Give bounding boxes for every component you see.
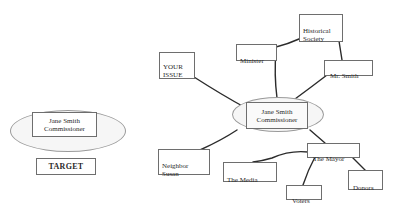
center-person-title: Commissioner	[257, 116, 298, 124]
center-person-box: Jane Smith Commissioner	[246, 102, 308, 129]
node-voters: Voters	[286, 185, 322, 200]
target-person-title: Commissioner	[44, 125, 85, 133]
edge-center-mayor	[310, 130, 325, 143]
node-label: The Mayor	[313, 155, 344, 163]
node-label: YOUR ISSUE	[163, 63, 183, 79]
node-label: Donors	[353, 184, 374, 192]
edge-mayor-media	[253, 152, 308, 162]
node-your-issue: YOUR ISSUE	[159, 52, 195, 79]
node-the-media: The Media	[223, 162, 277, 182]
node-label: The Media	[227, 176, 258, 184]
node-label: Historical Society	[303, 27, 331, 43]
edge-mayor-donors	[352, 157, 366, 171]
node-minister: Minister	[236, 44, 277, 61]
target-label: TARGET	[49, 163, 84, 171]
center-person-name: Jane Smith	[262, 108, 293, 116]
node-historical-society: Historical Society	[299, 14, 343, 42]
edge-your-issue-center	[194, 77, 246, 108]
edge-mrsmith-center	[295, 75, 327, 99]
target-person-name: Jane Smith	[49, 117, 80, 125]
edge-minister-historical	[276, 39, 299, 47]
edge-historical-mrsmith	[339, 41, 342, 60]
node-the-mayor: The Mayor	[307, 143, 360, 158]
node-donors: Donors	[348, 170, 383, 190]
node-label: Minister	[240, 57, 264, 65]
node-mr-smith: Mr. Smith	[324, 60, 373, 76]
target-label-box: TARGET	[36, 158, 96, 175]
target-person-box: Jane Smith Commissioner	[32, 112, 97, 137]
node-neighbor-susan: Neighbor Susan	[158, 149, 210, 175]
edge-susan-center	[200, 130, 237, 150]
node-label: Voters	[292, 197, 310, 205]
node-label: Mr. Smith	[330, 72, 358, 80]
